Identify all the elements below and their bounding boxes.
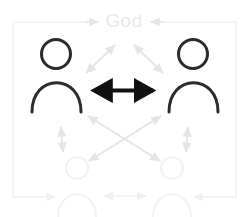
person-top-right [169,40,218,113]
frame-outline [13,22,236,197]
person-top-left [32,40,81,113]
arrow-right-vertical-down [186,127,188,152]
relationship-diagram-svg: God [0,0,249,217]
person-bottom-left [58,157,96,217]
arrow-left-person-to-god [86,45,115,73]
diagram-canvas: God [0,0,249,217]
arrow-right-person-to-god [134,45,163,73]
person-bottom-right [153,157,191,217]
arrow-left-vertical-down [61,127,63,152]
god-label: God [105,10,142,31]
